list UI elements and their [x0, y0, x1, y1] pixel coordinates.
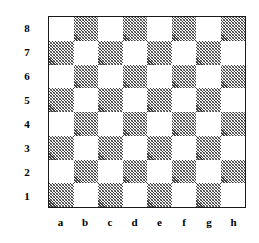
board-rank-2	[49, 160, 245, 184]
rank-label-6: 6	[14, 64, 40, 88]
square-g4[interactable]	[196, 112, 221, 136]
square-d5[interactable]	[123, 88, 148, 112]
rank-label-3: 3	[14, 136, 40, 160]
square-b6[interactable]	[74, 65, 99, 89]
square-g6[interactable]	[196, 65, 221, 89]
square-c8[interactable]	[98, 17, 123, 41]
square-f8[interactable]	[172, 17, 197, 41]
file-label-d: d	[122, 212, 147, 232]
square-b3[interactable]	[74, 136, 99, 160]
square-a6[interactable]	[49, 65, 74, 89]
square-d2[interactable]	[123, 160, 148, 184]
square-b1[interactable]	[74, 183, 99, 207]
square-b4[interactable]	[74, 112, 99, 136]
square-h4[interactable]	[221, 112, 246, 136]
board-rank-4	[49, 112, 245, 136]
square-h7[interactable]	[221, 41, 246, 65]
board-rank-8	[49, 17, 245, 41]
square-e2[interactable]	[147, 160, 172, 184]
square-d1[interactable]	[123, 183, 148, 207]
square-h5[interactable]	[221, 88, 246, 112]
square-e4[interactable]	[147, 112, 172, 136]
square-d7[interactable]	[123, 41, 148, 65]
square-a4[interactable]	[49, 112, 74, 136]
square-h2[interactable]	[221, 160, 246, 184]
file-label-f: f	[172, 212, 197, 232]
board-rank-7	[49, 41, 245, 65]
square-h8[interactable]	[221, 17, 246, 41]
rank-label-4: 4	[14, 112, 40, 136]
square-h3[interactable]	[221, 136, 246, 160]
file-label-row: a b c d e f g h	[48, 212, 246, 232]
square-c7[interactable]	[98, 41, 123, 65]
square-d4[interactable]	[123, 112, 148, 136]
square-c2[interactable]	[98, 160, 123, 184]
square-h6[interactable]	[221, 65, 246, 89]
square-d8[interactable]	[123, 17, 148, 41]
square-g2[interactable]	[196, 160, 221, 184]
square-a3[interactable]	[49, 136, 74, 160]
square-e6[interactable]	[147, 65, 172, 89]
square-h1[interactable]	[221, 183, 246, 207]
square-b7[interactable]	[74, 41, 99, 65]
square-c1[interactable]	[98, 183, 123, 207]
square-g3[interactable]	[196, 136, 221, 160]
square-a7[interactable]	[49, 41, 74, 65]
square-f2[interactable]	[172, 160, 197, 184]
rank-label-5: 5	[14, 88, 40, 112]
rank-label-2: 2	[14, 160, 40, 184]
square-g7[interactable]	[196, 41, 221, 65]
square-e5[interactable]	[147, 88, 172, 112]
rank-label-column: 8 7 6 5 4 3 2 1	[14, 16, 40, 208]
square-d6[interactable]	[123, 65, 148, 89]
square-f1[interactable]	[172, 183, 197, 207]
square-f6[interactable]	[172, 65, 197, 89]
square-f7[interactable]	[172, 41, 197, 65]
square-b2[interactable]	[74, 160, 99, 184]
square-b5[interactable]	[74, 88, 99, 112]
square-e3[interactable]	[147, 136, 172, 160]
square-a5[interactable]	[49, 88, 74, 112]
square-e8[interactable]	[147, 17, 172, 41]
file-label-g: g	[197, 212, 222, 232]
rank-label-7: 7	[14, 40, 40, 64]
square-e1[interactable]	[147, 183, 172, 207]
square-f4[interactable]	[172, 112, 197, 136]
file-label-a: a	[48, 212, 73, 232]
square-c3[interactable]	[98, 136, 123, 160]
square-e7[interactable]	[147, 41, 172, 65]
square-f3[interactable]	[172, 136, 197, 160]
square-a8[interactable]	[49, 17, 74, 41]
file-label-c: c	[98, 212, 123, 232]
board-rank-3	[49, 136, 245, 160]
square-g8[interactable]	[196, 17, 221, 41]
square-g5[interactable]	[196, 88, 221, 112]
square-g1[interactable]	[196, 183, 221, 207]
rank-label-8: 8	[14, 16, 40, 40]
file-label-h: h	[221, 212, 246, 232]
square-c4[interactable]	[98, 112, 123, 136]
square-b8[interactable]	[74, 17, 99, 41]
square-a2[interactable]	[49, 160, 74, 184]
square-d3[interactable]	[123, 136, 148, 160]
file-label-e: e	[147, 212, 172, 232]
square-f5[interactable]	[172, 88, 197, 112]
square-a1[interactable]	[49, 183, 74, 207]
square-c6[interactable]	[98, 65, 123, 89]
rank-label-1: 1	[14, 184, 40, 208]
board-rank-5	[49, 88, 245, 112]
chessboard-diagram: 8 7 6 5 4 3 2 1 a b c d e f g h	[0, 0, 259, 243]
board-rank-1	[49, 183, 245, 207]
file-label-b: b	[73, 212, 98, 232]
chess-board	[48, 16, 246, 208]
square-c5[interactable]	[98, 88, 123, 112]
board-rank-6	[49, 65, 245, 89]
